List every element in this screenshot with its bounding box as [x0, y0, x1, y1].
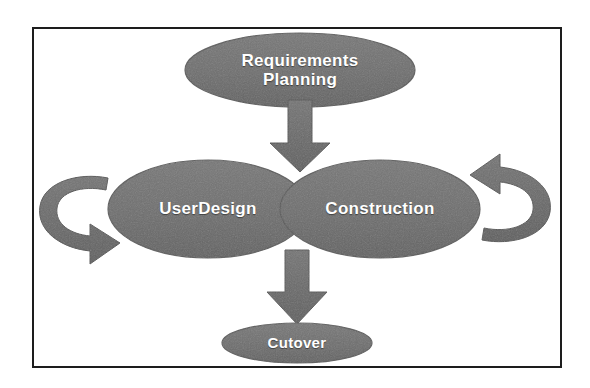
node-label-construction: Construction: [280, 160, 480, 258]
node-label-cutover: Cutover: [222, 323, 372, 363]
node-label-user-design: UserDesign: [108, 160, 308, 258]
node-label-requirements-planning: Requirements Planning: [185, 33, 415, 107]
rad-model-diagram: Requirements Planning UserDesign Constru…: [0, 0, 590, 388]
